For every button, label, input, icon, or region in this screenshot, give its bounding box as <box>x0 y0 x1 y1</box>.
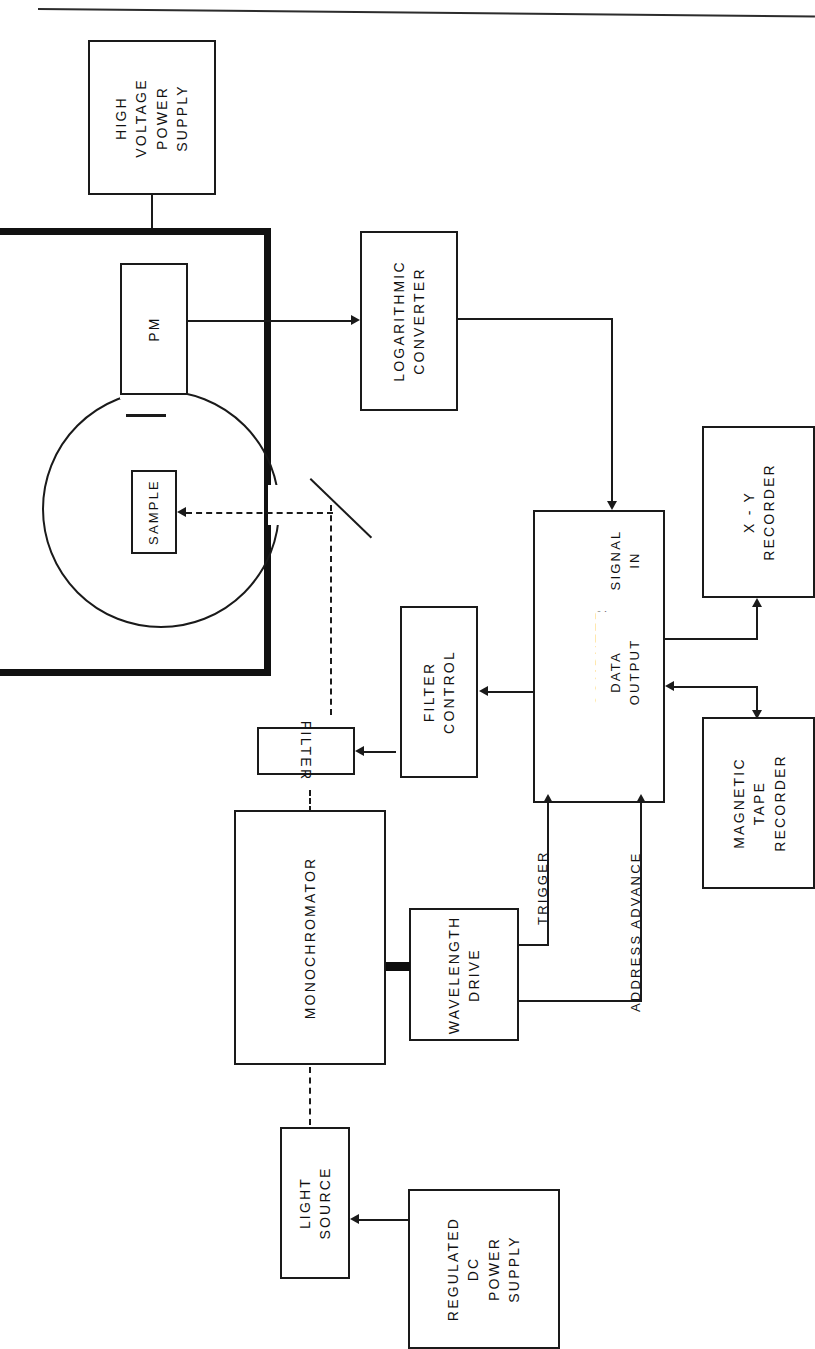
beam-path-filter-to-mirror <box>330 505 332 715</box>
page-top-rule <box>38 8 815 17</box>
label-line: FILTER <box>296 721 316 781</box>
label-line: SOURCE <box>315 1166 335 1239</box>
block-magnetic-tape-recorder: MAGNETIC TAPE RECORDER <box>702 717 815 889</box>
label-line: SAMPLE <box>145 479 164 545</box>
block-label-light-source: LIGHT SOURCE <box>295 1166 336 1239</box>
block-logarithmic-converter: LOGARITHMIC CONVERTER <box>360 231 458 411</box>
sphere-beam-entry-mask <box>268 485 284 525</box>
line-label-address-advance: ADDRESS ADVANCE <box>628 851 643 1012</box>
block-label-high-voltage-power-supply: HIGH VOLTAGE POWER SUPPLY <box>111 78 192 157</box>
port-label-data-output-wrap: DATA OUTPUT <box>596 612 656 732</box>
figure-canvas: HIGH VOLTAGE POWER SUPPLY PM SAMPLE LOGA… <box>0 0 815 1349</box>
label-line: POWER <box>152 78 172 157</box>
label-line: POWER <box>484 1217 504 1321</box>
connector-log-to-computer-v <box>611 318 613 501</box>
connector-trigger-h <box>519 944 549 946</box>
block-xy-recorder: X - Y RECORDER <box>702 426 815 598</box>
beam-arrow-into-sample <box>177 507 186 517</box>
connector-computer-to-xy-v <box>756 607 758 640</box>
label-line: X - Y <box>738 463 758 561</box>
block-label-sample: SAMPLE <box>145 479 164 545</box>
label-line: LOGARITHMIC <box>389 260 409 381</box>
connector-computer-to-tape-h <box>674 686 758 688</box>
label-line: RECORDER <box>769 754 789 852</box>
connector-dc-supply-to-light-source <box>359 1219 409 1221</box>
block-light-source: LIGHT SOURCE <box>280 1127 350 1279</box>
turning-mirror <box>310 478 373 538</box>
beam-path-to-sample <box>186 512 333 514</box>
label-line: TAPE <box>748 754 768 852</box>
block-sample: SAMPLE <box>131 470 177 554</box>
block-high-voltage-power-supply: HIGH VOLTAGE POWER SUPPLY <box>88 40 216 195</box>
label-line: IN <box>626 530 645 591</box>
connector-pm-to-log-converter <box>188 320 351 322</box>
connector-address-advance-h <box>519 1000 642 1002</box>
label-line: CONVERTER <box>409 260 429 381</box>
port-label-signal-in: SIGNAL IN <box>607 530 645 591</box>
arrow-into-xy-recorder <box>752 598 762 607</box>
block-label-logarithmic-converter: LOGARITHMIC CONVERTER <box>389 260 430 381</box>
label-line: SUPPLY <box>504 1217 524 1321</box>
arrow-trigger-into-computer <box>543 794 553 803</box>
beam-path-source-to-monochromator <box>309 1067 311 1125</box>
block-wavelength-drive: WAVELENGTH DRIVE <box>409 908 519 1041</box>
block-filter-control: FILTER CONTROL <box>400 606 478 778</box>
label-line: VOLTAGE <box>132 78 152 157</box>
arrow-into-computer-signal-in <box>607 501 617 510</box>
block-monochromator: MONOCHROMATOR <box>234 810 386 1065</box>
block-photomultiplier: PM <box>120 263 188 395</box>
label-line: SUPPLY <box>172 78 192 157</box>
block-regulated-dc-power-supply: REGULATED DC POWER SUPPLY <box>408 1189 560 1349</box>
arrow-into-filter <box>355 746 364 756</box>
block-label-photomultiplier: PM <box>144 316 164 341</box>
block-label-regulated-dc-power-supply: REGULATED DC POWER SUPPLY <box>443 1217 524 1321</box>
arrow-address-advance-into-computer <box>636 794 646 803</box>
block-label-filter: FILTER <box>296 721 316 781</box>
label-line: LIGHT <box>295 1166 315 1239</box>
arrow-into-light-source <box>350 1214 359 1224</box>
label-line: CONTROL <box>439 650 459 734</box>
arrow-into-tape-recorder <box>752 710 762 719</box>
label-line: WAVELENGTH <box>444 915 464 1033</box>
label-line: PM <box>144 316 164 341</box>
arrow-into-log-converter <box>351 315 360 325</box>
sphere-baffle <box>126 414 166 417</box>
block-label-filter-control: FILTER CONTROL <box>419 650 460 734</box>
label-line: DATA <box>607 639 626 706</box>
label-line: FILTER <box>419 650 439 734</box>
block-label-wavelength-drive: WAVELENGTH DRIVE <box>444 915 485 1033</box>
block-label-xy-recorder: X - Y RECORDER <box>738 463 779 561</box>
connector-computer-to-xy-h <box>665 638 758 640</box>
label-line: REGULATED <box>443 1217 463 1321</box>
beam-path-monochromator-to-filter <box>309 790 311 812</box>
connector-log-to-computer-h <box>458 318 613 320</box>
port-label-data-output: DATA OUTPUT <box>607 639 645 706</box>
mechanical-coupler <box>386 962 410 971</box>
label-line: MONOCHROMATOR <box>300 856 320 1019</box>
label-line: OUTPUT <box>626 639 645 706</box>
label-line: DC <box>464 1217 484 1321</box>
connector-filter-control-to-filter <box>364 751 396 753</box>
line-label-trigger: TRIGGER <box>535 850 550 925</box>
block-label-magnetic-tape-recorder: MAGNETIC TAPE RECORDER <box>728 754 789 852</box>
port-label-signal-in-wrap: SIGNAL IN <box>596 516 656 604</box>
label-line: DRIVE <box>464 915 484 1033</box>
block-label-monochromator: MONOCHROMATOR <box>300 856 320 1019</box>
label-line: HIGH <box>111 78 131 157</box>
arrow-into-filter-control <box>479 686 488 696</box>
block-filter: FILTER <box>257 727 355 775</box>
arrow-into-computer-data-output <box>665 681 674 691</box>
label-line: MAGNETIC <box>728 754 748 852</box>
label-line: RECORDER <box>759 463 779 561</box>
label-line: SIGNAL <box>607 530 626 591</box>
connector-computer-to-filter-control <box>488 691 533 693</box>
